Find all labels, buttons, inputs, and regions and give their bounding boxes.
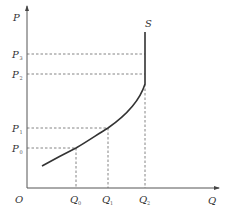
- svg-text:Q: Q: [70, 194, 78, 205]
- price-label-p1: P 1: [11, 123, 23, 135]
- svg-text:P: P: [11, 49, 19, 60]
- svg-text:2: 2: [147, 200, 150, 206]
- quantity-label-q1: Q 1: [102, 194, 113, 206]
- svg-text:P: P: [11, 143, 19, 154]
- quantity-label-q0: Q 0: [70, 194, 81, 206]
- svg-text:P: P: [11, 123, 19, 134]
- supply-curve-label: S: [145, 18, 152, 29]
- price-label-p2: P 2: [11, 69, 23, 81]
- svg-text:P: P: [11, 69, 19, 80]
- svg-text:1: 1: [20, 129, 23, 135]
- supply-curve-diagram: P Q O S P 3 P 2 P 1 P 0 Q 0 Q 1 Q: [0, 0, 230, 214]
- svg-text:2: 2: [20, 75, 23, 81]
- origin-label: O: [15, 194, 23, 205]
- price-label-p3: P 3: [11, 49, 23, 61]
- x-axis-label: Q: [208, 195, 216, 206]
- y-axis-label: P: [12, 12, 20, 23]
- quantity-label-q2: Q 2: [139, 194, 150, 206]
- svg-text:1: 1: [110, 200, 113, 206]
- supply-curve: [42, 32, 145, 166]
- svg-text:Q: Q: [139, 194, 147, 205]
- svg-text:3: 3: [20, 55, 23, 61]
- svg-text:0: 0: [78, 200, 81, 206]
- price-label-p0: P 0: [11, 143, 23, 155]
- diagram-canvas: P Q O S P 3 P 2 P 1 P 0 Q 0 Q 1 Q: [0, 0, 230, 214]
- svg-text:0: 0: [20, 149, 23, 155]
- svg-text:Q: Q: [102, 194, 110, 205]
